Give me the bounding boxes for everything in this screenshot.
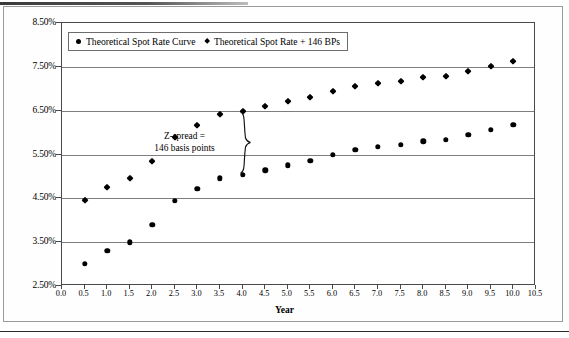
data-point [308,158,313,163]
data-point [511,122,516,127]
y-tick-label: 4.50% [0,192,56,202]
data-point [466,132,471,137]
data-point [488,63,494,69]
data-point [465,68,471,74]
x-tick-label: 10.5 [528,289,543,298]
x-tick-label: 9.0 [462,289,472,298]
legend-entry-spot-rate-plus-146bps: Theoretical Spot Rate + 146 BPs [205,36,341,47]
x-tick-mark [106,285,107,289]
gridline [62,198,534,199]
x-tick-mark [219,285,220,289]
x-tick-label: 3.5 [214,289,224,298]
data-point [217,175,222,180]
x-tick-mark [129,285,130,289]
data-point [375,80,381,86]
data-point [104,184,110,190]
data-point [443,137,448,142]
x-tick-mark [400,285,401,289]
x-tick-label: 5.0 [282,289,292,298]
y-tick-label: 8.50% [0,17,56,27]
data-point [194,121,200,127]
data-point [397,78,403,84]
x-tick-label: 0.5 [78,289,88,298]
x-tick-mark [242,285,243,289]
data-point [262,103,268,109]
x-tick-label: 0.0 [56,289,66,298]
circle-marker-icon [76,39,81,44]
x-tick-mark [309,285,310,289]
legend-label-spot-rate-curve: Theoretical Spot Rate Curve [86,36,196,47]
x-tick-mark [196,285,197,289]
x-tick-label: 9.5 [485,289,495,298]
x-tick-mark [332,285,333,289]
legend-label-spot-rate-plus-146bps: Theoretical Spot Rate + 146 BPs [214,36,340,47]
data-point [262,168,267,173]
gridline [62,67,534,68]
y-tick-label: 7.50% [0,61,56,71]
x-tick-mark [354,285,355,289]
data-point [195,186,200,191]
data-point [330,87,336,93]
x-tick-label: 10.0 [505,289,520,298]
gridline [62,242,534,243]
data-point [307,93,313,99]
data-point [488,127,493,132]
x-tick-mark [535,285,536,289]
data-point [82,261,87,266]
x-tick-label: 4.0 [236,289,246,298]
x-tick-label: 7.0 [372,289,382,298]
x-tick-mark [422,285,423,289]
data-point [285,163,290,168]
data-point [510,57,516,63]
data-point [150,222,155,227]
gridline [62,155,534,156]
x-tick-label: 7.5 [394,289,404,298]
x-tick-label: 6.0 [327,289,337,298]
x-tick-mark [445,285,446,289]
legend-entry-spot-rate-curve: Theoretical Spot Rate Curve [76,36,196,47]
gridline [62,111,534,112]
x-tick-mark [264,285,265,289]
x-tick-label: 1.0 [101,289,111,298]
plot-area: Z-spread = 146 basis points Theoretical … [61,22,535,285]
x-tick-mark [174,285,175,289]
x-tick-label: 6.5 [349,289,359,298]
data-point [330,152,335,157]
x-tick-label: 1.5 [124,289,134,298]
data-point [442,72,448,78]
data-point [420,139,425,144]
data-point [420,74,426,80]
data-point [104,248,109,253]
x-tick-mark [512,285,513,289]
data-point [217,111,223,117]
data-point [126,175,132,181]
x-tick-mark [490,285,491,289]
x-tick-label: 2.5 [169,289,179,298]
data-point [127,239,132,244]
data-point [375,144,380,149]
x-tick-label: 8.0 [417,289,427,298]
data-point [172,198,177,203]
x-tick-label: 2.0 [146,289,156,298]
z-spread-annotation: Z-spread = 146 basis points [135,130,235,155]
page-rule [0,331,569,332]
x-tick-mark [84,285,85,289]
x-axis-title: Year [0,305,569,315]
x-tick-mark [151,285,152,289]
x-tick-mark [377,285,378,289]
x-tick-label: 5.5 [304,289,314,298]
x-tick-mark [287,285,288,289]
y-tick-label: 3.50% [0,236,56,246]
y-tick-label: 5.50% [0,149,56,159]
data-point [353,147,358,152]
y-tick-label: 2.50% [0,280,56,290]
y-tick-label: 6.50% [0,105,56,115]
chart-legend: Theoretical Spot Rate Curve Theoretical … [68,32,348,51]
z-spread-line-2: 146 basis points [135,142,235,155]
data-point [352,82,358,88]
z-spread-line-1: Z-spread = [135,130,235,143]
data-point [81,197,87,203]
x-tick-label: 3.0 [191,289,201,298]
x-tick-label: 4.5 [259,289,269,298]
x-tick-mark [61,285,62,289]
